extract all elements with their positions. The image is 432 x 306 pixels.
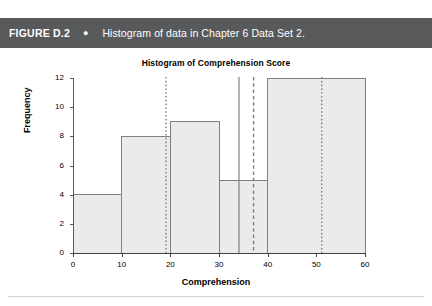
footer-divider [8,296,424,297]
histogram-bar [268,78,365,253]
histogram-bar [219,180,268,253]
histogram-bar [170,122,219,253]
figure-panel: FIGURE D.2 ● Histogram of data in Chapte… [0,0,432,306]
histogram-bar [73,195,122,253]
histogram-bar [122,136,171,253]
histogram-plot [0,0,432,306]
